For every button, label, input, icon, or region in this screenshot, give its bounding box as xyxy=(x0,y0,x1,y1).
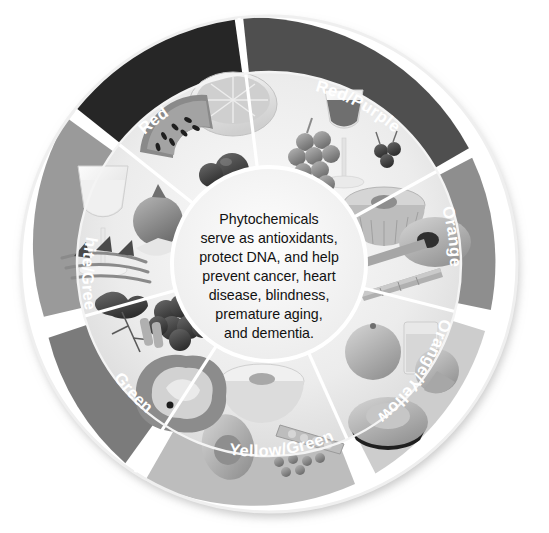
orange-fruit-icon xyxy=(345,324,401,380)
center-text-block: Phytochemicals serve as antioxidants, pr… xyxy=(199,211,339,341)
wine-glass-stem-icon xyxy=(342,138,346,180)
center-text-line-6: premature aging, xyxy=(215,306,322,322)
center-text-line-7: and dementia. xyxy=(224,325,314,341)
honeydew-seed-cavity-icon xyxy=(249,373,275,385)
orange-navel-icon xyxy=(370,323,376,329)
center-text-line-1: Phytochemicals xyxy=(219,211,318,227)
cabbage-detail-icon xyxy=(167,402,174,409)
center-text-line-2: serve as antioxidants, xyxy=(200,230,337,246)
center-text-line-3: protect DNA, and help xyxy=(199,249,339,265)
center-text-line-5: disease, blindness, xyxy=(209,287,330,303)
tomato-highlight-icon xyxy=(220,158,232,166)
phytochemical-color-wheel: Phytochemicals serve as antioxidants, pr… xyxy=(0,0,549,533)
center-text-line-4: prevent cancer, heart xyxy=(202,268,335,284)
